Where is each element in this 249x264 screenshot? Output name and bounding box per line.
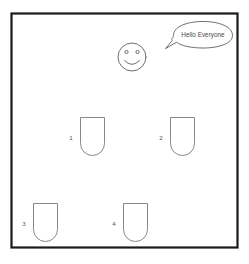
classroom-scene: Hello Everyone 1 2 3 4 [0, 0, 249, 264]
desk-shape [124, 204, 148, 242]
desk-shape [171, 118, 195, 156]
desk-label: 4 [112, 220, 116, 227]
desk-shape [34, 204, 58, 242]
desk-label: 2 [159, 134, 163, 141]
speech-bubble-text: Hello Everyone [181, 31, 225, 39]
desk-label: 1 [69, 134, 73, 141]
desk-label: 3 [22, 220, 26, 227]
desk-shape [81, 118, 105, 156]
